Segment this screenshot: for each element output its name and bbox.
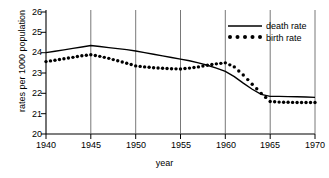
legend-group xyxy=(228,26,262,39)
legend-marker-birth-rate xyxy=(228,35,262,39)
chart-container: rates per 1000 population year 26 25 24 … xyxy=(0,0,329,178)
legend-label-birth-rate: birth rate xyxy=(266,33,302,43)
legend-label-death-rate: death rate xyxy=(266,21,307,31)
